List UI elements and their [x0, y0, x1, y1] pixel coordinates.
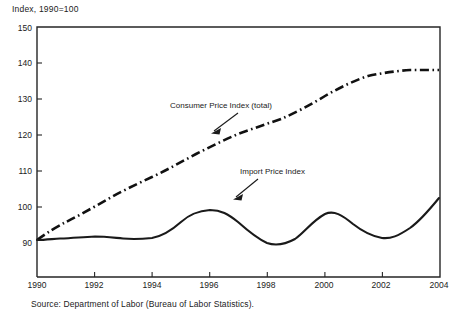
- series-import-price-index: [37, 198, 439, 245]
- x-tick-marks: [95, 272, 383, 277]
- chart-source-note: Source: Department of Labor (Bureau of L…: [31, 299, 254, 309]
- chart-figure: Index, 1990=100 150 140 130 120 110 100 …: [0, 0, 460, 314]
- plot-frame: [37, 27, 440, 277]
- chart-plot-area: [0, 0, 460, 314]
- annotation-ipi-arrow: [233, 179, 258, 201]
- y-tick-marks: [37, 63, 42, 207]
- series-consumer-price-index: [37, 70, 439, 240]
- annotation-cpi-arrow: [211, 113, 238, 135]
